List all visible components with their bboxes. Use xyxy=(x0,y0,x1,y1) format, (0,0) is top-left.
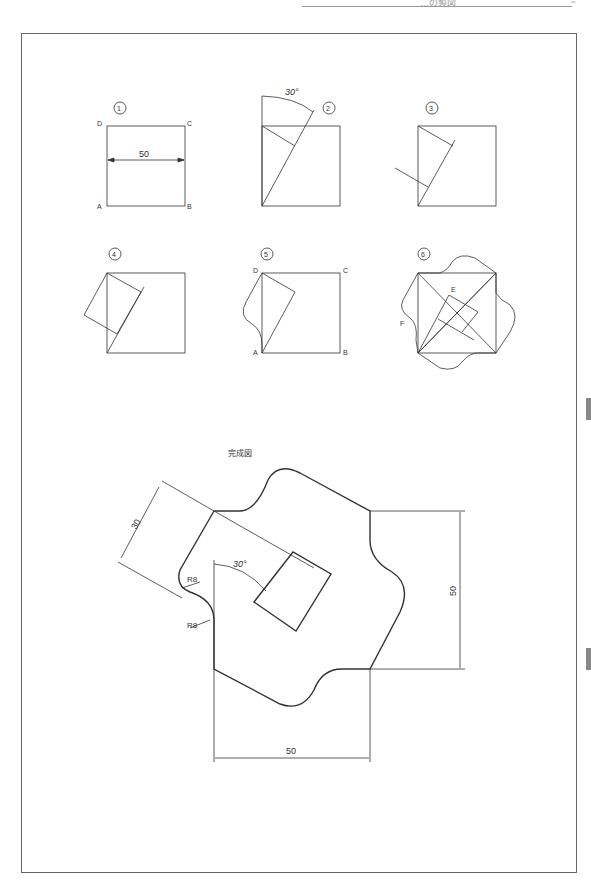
step-6 xyxy=(402,248,515,369)
svg-text:50: 50 xyxy=(286,746,296,756)
svg-text:2: 2 xyxy=(326,105,330,112)
svg-text:A: A xyxy=(97,203,102,210)
svg-text:30°: 30° xyxy=(285,87,299,97)
svg-text:30°: 30° xyxy=(233,559,247,569)
svg-text:R8: R8 xyxy=(187,621,198,630)
svg-text:B: B xyxy=(187,203,192,210)
svg-text:C: C xyxy=(187,120,192,127)
svg-text:D: D xyxy=(97,120,102,127)
svg-text:4: 4 xyxy=(112,251,116,258)
step-5 xyxy=(243,248,340,353)
final-drawing xyxy=(118,469,465,762)
svg-text:R8: R8 xyxy=(187,575,198,584)
svg-text:3: 3 xyxy=(429,105,433,112)
svg-text:1: 1 xyxy=(117,105,121,112)
svg-text:E: E xyxy=(451,286,456,293)
svg-text:D: D xyxy=(253,267,258,274)
svg-text:50: 50 xyxy=(139,149,149,159)
svg-text:6: 6 xyxy=(421,251,425,258)
svg-text:B: B xyxy=(343,349,348,356)
svg-text:F: F xyxy=(400,320,404,327)
svg-text:C: C xyxy=(343,267,348,274)
svg-text:30: 30 xyxy=(129,517,143,531)
step-4 xyxy=(84,248,185,353)
svg-text:完成図: 完成図 xyxy=(228,448,252,458)
drawing-canvas: 1 D C A B 50 2 30° 3 4 5 D C A B 6 E F 完… xyxy=(0,0,591,880)
svg-text:5: 5 xyxy=(264,251,268,258)
step-2 xyxy=(262,96,340,206)
svg-text:A: A xyxy=(253,349,258,356)
svg-text:50: 50 xyxy=(448,586,458,596)
step-3 xyxy=(395,102,496,206)
